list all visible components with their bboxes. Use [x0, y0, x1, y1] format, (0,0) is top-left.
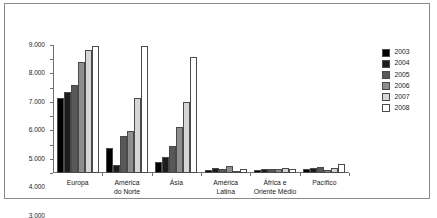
x-tick-mark	[349, 173, 350, 176]
bar-group	[303, 45, 345, 173]
legend-swatch	[382, 71, 390, 79]
legend-label: 2004	[395, 60, 410, 67]
legend-label: 2006	[395, 83, 410, 90]
bar-group	[106, 45, 148, 173]
y-tick-mark: 5.000	[50, 102, 53, 103]
bar	[261, 169, 268, 173]
x-tick-mark	[102, 173, 103, 176]
y-tick-mark: 3.000	[50, 130, 53, 131]
legend-label: 2005	[395, 72, 410, 79]
y-tick-label: 6.000	[29, 127, 45, 134]
bar	[183, 102, 190, 173]
y-axis-line	[53, 45, 54, 173]
bar	[134, 98, 141, 173]
bar	[303, 169, 310, 173]
y-tick-mark: 2.000	[50, 145, 53, 146]
legend-item[interactable]: 2007	[382, 93, 410, 101]
chart-figure: 01.0002.0003.0004.0005.0006.0007.0008.00…	[4, 3, 430, 199]
y-tick-label: 3.000	[29, 212, 45, 213]
y-tick-mark: 8.000	[50, 59, 53, 60]
x-tick-mark	[300, 173, 301, 176]
bar	[205, 170, 212, 173]
bar	[317, 167, 324, 173]
bar	[127, 131, 134, 173]
x-category-label-line: Pacífico	[312, 178, 336, 187]
legend-item[interactable]: 2003	[382, 49, 410, 57]
x-category-label-line: Europa	[67, 178, 89, 187]
y-tick-label: 9.000	[29, 42, 45, 49]
bar	[254, 170, 261, 173]
x-category-label: Europa	[67, 178, 89, 187]
y-tick-label: 7.000	[29, 99, 45, 106]
legend-swatch	[382, 60, 390, 68]
bar-group	[155, 45, 197, 173]
x-category-label: África eOriente Médio	[254, 178, 297, 196]
plot-area: 01.0002.0003.0004.0005.0006.0007.0008.00…	[53, 45, 349, 173]
bar	[289, 169, 296, 173]
y-tick-mark: 4.000	[50, 116, 53, 117]
y-tick-mark: 7.000	[50, 73, 53, 74]
legend-swatch	[382, 49, 390, 57]
y-tick-label: 4.000	[29, 184, 45, 191]
bar-group	[205, 45, 247, 173]
x-category-label-line: África e	[254, 178, 297, 187]
x-category-label-line: Oriente Médio	[254, 187, 297, 196]
bar	[240, 169, 247, 173]
bar	[71, 85, 78, 173]
x-category-label: Américado Norte	[114, 178, 140, 196]
legend-item[interactable]: 2006	[382, 82, 410, 90]
bar	[338, 164, 345, 173]
bar	[162, 157, 169, 173]
y-tick-mark: 9.000	[50, 45, 53, 46]
x-tick-mark	[201, 173, 202, 176]
x-category-label-line: América	[114, 178, 140, 187]
bar-group	[57, 45, 99, 173]
x-category-label-line: Ásia	[170, 178, 183, 187]
y-tick-mark: 1.000	[50, 159, 53, 160]
legend-label: 2007	[395, 94, 410, 101]
bar	[78, 62, 85, 173]
y-tick-mark: 0	[50, 173, 53, 174]
bar-group	[254, 45, 296, 173]
x-tick-mark	[250, 173, 251, 176]
x-tick-mark	[152, 173, 153, 176]
x-category-label: Pacífico	[312, 178, 336, 187]
bar	[106, 148, 113, 173]
x-category-label-line: Latina	[213, 187, 238, 196]
bar	[226, 166, 233, 173]
legend-item[interactable]: 2004	[382, 60, 410, 68]
x-category-label: AméricaLatina	[213, 178, 238, 196]
bar	[113, 165, 120, 173]
bar	[268, 169, 275, 173]
y-tick-mark: 6.000	[50, 88, 53, 89]
bar	[85, 50, 92, 173]
x-category-label-line: América	[213, 178, 238, 187]
y-tick-label: 5.000	[29, 156, 45, 163]
legend-swatch	[382, 104, 390, 112]
bar	[233, 171, 240, 173]
bar	[331, 168, 338, 173]
bar	[169, 146, 176, 173]
bar	[176, 127, 183, 173]
y-tick-label: 8.000	[29, 70, 45, 77]
bar	[92, 46, 99, 173]
x-category-label-line: do Norte	[114, 187, 140, 196]
bar	[310, 168, 317, 173]
legend-item[interactable]: 2008	[382, 104, 410, 112]
bar	[64, 92, 71, 173]
bar	[212, 168, 219, 173]
bar	[190, 57, 197, 173]
chart-legend: 200320042005200620072008	[382, 49, 410, 112]
bar	[324, 170, 331, 173]
bar	[141, 46, 148, 173]
legend-label: 2003	[395, 49, 410, 56]
legend-swatch	[382, 82, 390, 90]
legend-swatch	[382, 93, 390, 101]
x-category-label: Ásia	[170, 178, 183, 187]
legend-item[interactable]: 2005	[382, 71, 410, 79]
bar	[57, 98, 64, 173]
bar	[282, 168, 289, 173]
bar	[120, 136, 127, 173]
bar	[275, 169, 282, 173]
bar	[219, 169, 226, 173]
